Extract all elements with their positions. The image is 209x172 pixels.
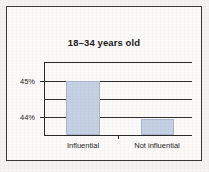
y-tick-label-44: 44% [20, 114, 35, 122]
category-label-not-influential: Not influential [134, 142, 179, 150]
y-tick-label-45: 45% [20, 78, 35, 86]
chart-title: 18–34 years old [7, 37, 201, 48]
category-label-influential: Influential [67, 142, 99, 150]
plot-top-border [44, 62, 192, 63]
y-tick-mark-45: 45% [40, 81, 44, 82]
bar-chart-plot-area: 45% 44% Influential Not influential [44, 62, 192, 135]
bar-influential [66, 81, 100, 135]
x-axis-center-tick [118, 135, 119, 139]
bar-not-influential [141, 119, 174, 135]
scanned-page-background: 18–34 years old 45% 44% Influential Not … [0, 0, 209, 172]
y-tick-mark-44: 44% [40, 117, 44, 118]
